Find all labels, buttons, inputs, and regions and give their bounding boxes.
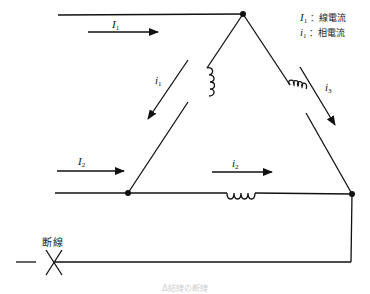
- node-bottom-right: [349, 191, 355, 197]
- label-i1: i1: [155, 75, 162, 88]
- node-bottom-left: [125, 190, 131, 196]
- legend: I1 ：線電流 i1 ：相電流: [300, 12, 346, 42]
- supply-line-3-vertical: [351, 194, 352, 262]
- node-top: [240, 11, 246, 17]
- break-label: 断線: [42, 234, 64, 249]
- delta-side-left: [207, 14, 243, 68]
- figure-caption: Δ結線の断線: [0, 282, 370, 293]
- legend-row-phase-current: i1 ：相電流: [300, 27, 346, 42]
- label-i3: i3: [325, 82, 332, 95]
- label-I1: I1: [112, 19, 119, 32]
- coil-left-icon: [207, 68, 215, 96]
- legend-row-line-current: I1 ：線電流: [300, 12, 346, 27]
- arrow-i3-icon: [300, 67, 335, 125]
- coil-right-icon: [289, 80, 307, 89]
- supply-line-1: [58, 14, 243, 15]
- delta-side-right: [243, 14, 290, 85]
- coil-bottom-icon: [227, 193, 255, 199]
- circuit-diagram: [0, 0, 370, 294]
- label-i2: i2: [232, 158, 239, 171]
- label-I2: I2: [78, 156, 85, 169]
